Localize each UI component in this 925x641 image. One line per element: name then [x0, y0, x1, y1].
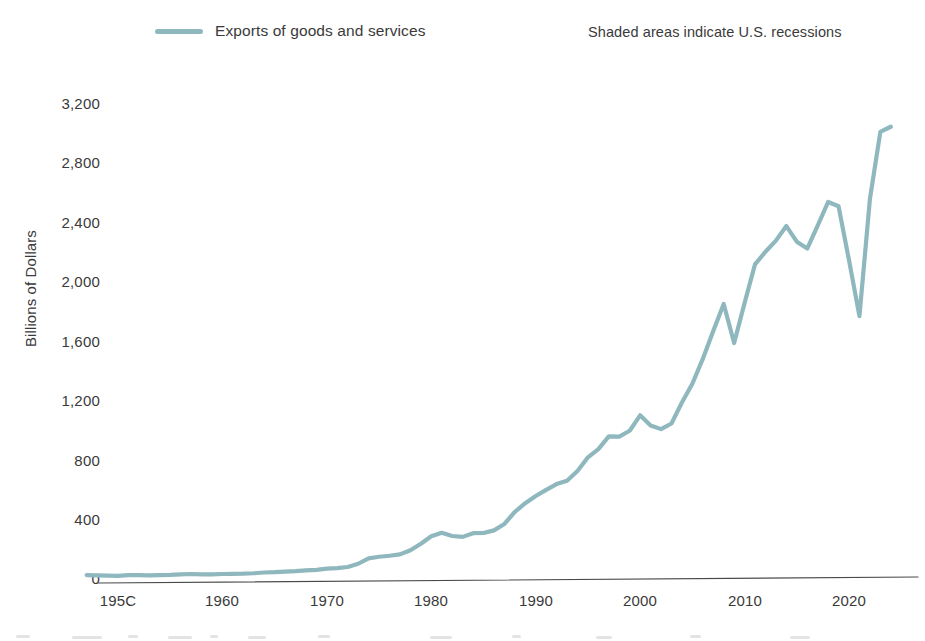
- scan-edge-artifacts: [0, 631, 925, 641]
- series-line-exports: [87, 127, 891, 576]
- chart-plot-area: [0, 0, 925, 641]
- x-axis-line: [98, 577, 918, 583]
- exports-line-chart: [0, 0, 925, 641]
